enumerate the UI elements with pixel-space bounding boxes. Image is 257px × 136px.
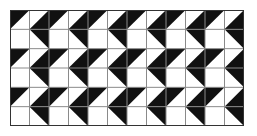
- tessellation-svg: [10, 10, 244, 126]
- triangle-tessellation-grid: [10, 10, 244, 126]
